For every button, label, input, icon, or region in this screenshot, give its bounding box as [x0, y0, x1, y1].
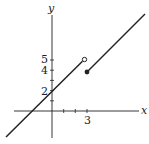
closed-endpoint [85, 70, 90, 75]
piecewise-graph: y x 3 2 4 5 [0, 0, 149, 144]
y-axis-label: y [47, 2, 55, 15]
y-tick-label-5: 5 [41, 53, 48, 66]
x-axis-label: x [141, 104, 148, 117]
x-tick-label-3: 3 [84, 114, 91, 127]
line-segment-right [87, 14, 145, 72]
open-endpoint [82, 57, 86, 61]
